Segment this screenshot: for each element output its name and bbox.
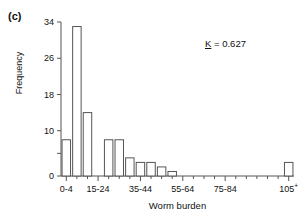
x-axis-title: Worm burden <box>60 200 295 211</box>
histogram-bar <box>83 113 91 176</box>
x-tick-label: 55-64 <box>171 184 194 194</box>
x-tick-label: 0-4 <box>60 184 73 194</box>
histogram-bar <box>147 162 155 176</box>
x-tick-label: 75-84 <box>214 184 237 194</box>
y-axis: 010182634 <box>44 17 61 181</box>
y-tick-label: 10 <box>44 126 54 136</box>
figure-panel: (c) Frequency Worm burden K = 0.627 0101… <box>0 0 308 223</box>
k-statistic-annotation: K = 0.627 <box>205 38 246 49</box>
y-tick-label: 18 <box>44 90 54 100</box>
histogram-bar <box>136 162 144 176</box>
x-tick-label: 105+ <box>279 182 298 194</box>
y-tick-label: 34 <box>44 17 54 27</box>
k-equals: = <box>211 38 222 49</box>
histogram-bar <box>284 162 292 176</box>
histogram-bar <box>168 171 176 176</box>
y-axis-title: Frequency <box>14 28 24 118</box>
histogram-bar <box>73 27 81 176</box>
x-tick-label: 35-44 <box>129 184 152 194</box>
histogram-bar <box>157 167 165 176</box>
panel-label: (c) <box>8 10 21 22</box>
bars-group <box>62 27 293 176</box>
histogram-bar <box>115 140 123 176</box>
histogram-bar <box>62 140 70 176</box>
y-tick-label: 0 <box>49 171 54 181</box>
histogram-bar <box>104 140 112 176</box>
y-tick-label: 26 <box>44 53 54 63</box>
x-tick-label: 15-24 <box>87 184 110 194</box>
x-axis: 0-415-2435-4455-6475-84105+ <box>60 176 299 194</box>
histogram-bar <box>126 158 134 176</box>
histogram-plot: 010182634 0-415-2435-4455-6475-84105+ <box>0 0 308 223</box>
k-value: 0.627 <box>222 38 246 49</box>
